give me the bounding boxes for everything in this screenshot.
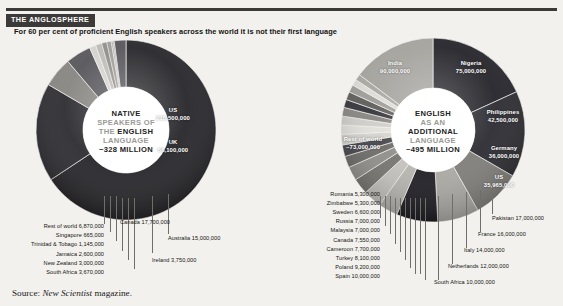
callout-new-zealand: New Zealand 3,000,000: [44, 259, 104, 267]
leader-line-malaysia: [400, 198, 401, 252]
native-speakers-donut-chart: NATIVESPEAKERS OFTHE ENGLISHLANGUAGE~328…: [28, 38, 258, 223]
callout-italy: Italy 14,000,000: [464, 246, 505, 254]
leader-line-cameroon: [410, 198, 411, 268]
callout-trinidad-tobago: Trinidad & Tobago 1,145,000: [31, 240, 104, 248]
callout-canada: Canada 7,550,000: [333, 236, 380, 244]
leader-line-singapore: [110, 196, 111, 232]
leader-line-pakistan: [492, 186, 493, 214]
donut-hub-right: [391, 88, 475, 172]
callout-south-africa: South Africa 10,000,000: [434, 278, 495, 286]
callout-zimbabwe: Zimbabwe 5,300,000: [327, 199, 380, 207]
infographic-page: THE ANGLOSPHERE For 60 per cent of profi…: [0, 0, 563, 306]
callout-singapore: Singapore 665,000: [56, 231, 104, 239]
callout-poland: Poland 9,200,000: [335, 263, 380, 271]
callout-sweden: Sweden 6,600,000: [333, 208, 380, 216]
callout-pakistan: Pakistan 17,000,000: [492, 214, 544, 222]
leader-line-turkey: [415, 198, 416, 274]
leader-line-france: [480, 190, 481, 232]
native-speakers-svg: [28, 38, 258, 223]
leader-line-australia: [168, 194, 169, 234]
leader-line-southafrica: [134, 198, 135, 269]
callout-jamaica: Jamaica 2,600,000: [56, 250, 104, 258]
source-credit: Source: New Scientist magazine.: [12, 288, 132, 298]
callout-rest-of-world: Rest of world 6,870,000: [44, 222, 104, 230]
callouts-left-native: Rest of world 6,870,000Singapore 665,000…: [2, 222, 104, 282]
callout-cameroon: Cameroon 7,700,000: [327, 245, 380, 253]
callout-south-africa: South Africa 3,670,000: [46, 268, 104, 276]
leader-line-spain: [425, 198, 426, 280]
leader-line-netherlands: [452, 194, 453, 264]
callout-spain: Spain 10,000,000: [335, 272, 380, 280]
leader-line-sweden: [390, 196, 391, 234]
leader-line-southafrica-r: [438, 196, 439, 280]
leader-line-romania: [380, 196, 381, 218]
leader-line-trinidad: [116, 196, 117, 241]
top-divider: [6, 8, 557, 11]
callout-canada: Canada 17,700,000: [120, 218, 170, 226]
subtitle-text: For 60 per cent of proficient English sp…: [14, 27, 337, 36]
leader-line-newzealand: [128, 198, 129, 260]
leader-line-russia: [395, 198, 396, 244]
leader-line-italy: [466, 192, 467, 248]
section-header-bar: THE ANGLOSPHERE: [6, 14, 95, 27]
callout-france: France 16,000,000: [478, 230, 526, 238]
donut-hub-left: [83, 87, 169, 173]
callout-turkey: Turkey 8,100,000: [336, 254, 380, 262]
callout-russia: Russia 7,000,000: [336, 217, 380, 225]
callout-netherlands: Netherlands 12,000,000: [448, 262, 509, 270]
callout-romania: Romania 5,300,000: [330, 190, 380, 198]
source-prefix: Source:: [12, 288, 40, 298]
leader-line-poland: [420, 198, 421, 274]
section-eyebrow-label: THE ANGLOSPHERE: [11, 16, 89, 24]
leader-line-restofworld: [104, 196, 105, 224]
callout-australia: Australia 15,000,000: [168, 234, 220, 242]
callout-malaysia: Malaysia 7,000,000: [331, 226, 380, 234]
leader-line-zimbabwe: [385, 196, 386, 226]
leader-line-canada: [405, 198, 406, 260]
source-publication: New Scientist: [42, 288, 92, 298]
source-suffix: magazine.: [94, 288, 132, 298]
callout-ireland: Ireland 3,750,000: [152, 256, 196, 264]
